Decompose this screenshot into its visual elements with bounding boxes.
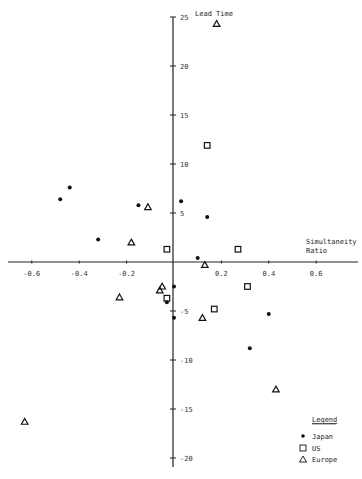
x-tick-label: 0.6 (310, 270, 323, 278)
legend-title: Legend (312, 416, 337, 424)
y-tick-label: 25 (180, 14, 188, 22)
legend-us-marker (300, 445, 306, 451)
y-tick-label: 10 (180, 161, 188, 169)
legend-europe-marker (300, 456, 307, 462)
point-us (164, 246, 170, 252)
x-tick-label: -0.2 (118, 270, 135, 278)
y-axis-title: Lead Time (195, 10, 233, 18)
y-tick-label: 20 (180, 63, 188, 71)
data-points (21, 21, 279, 425)
scatter-chart: -0.6-0.4-0.20.20.40.6 252015105-5-10-15-… (0, 0, 362, 479)
x-tick-label: 0.2 (215, 270, 228, 278)
point-japan (267, 312, 271, 316)
point-us (245, 284, 251, 290)
point-japan (172, 285, 176, 289)
point-japan (136, 203, 140, 207)
point-europe (128, 239, 135, 245)
y-tick-label: -15 (180, 406, 193, 414)
point-us (211, 306, 217, 312)
legend-japan-marker (301, 434, 305, 438)
y-tick-label: 5 (180, 210, 184, 218)
point-us (204, 143, 210, 149)
point-japan (196, 256, 200, 260)
point-europe (202, 262, 209, 268)
legend-us-label: US (312, 445, 320, 453)
point-us (235, 246, 241, 252)
x-axis-title-line2: Ratio (306, 247, 327, 255)
point-japan (172, 316, 176, 320)
y-tick-label: 15 (180, 112, 188, 120)
point-europe (21, 418, 28, 424)
y-tick-label: -20 (180, 455, 193, 463)
point-japan (68, 186, 72, 190)
point-japan (179, 199, 183, 203)
y-tick-label: -10 (180, 357, 193, 365)
point-europe (145, 204, 152, 210)
point-japan (205, 215, 209, 219)
x-axis-title-line1: Simultaneity (306, 238, 357, 246)
point-europe (213, 21, 220, 27)
point-japan (248, 346, 252, 350)
point-japan (96, 237, 100, 241)
point-europe (273, 386, 280, 392)
point-europe (156, 287, 163, 293)
point-europe (116, 294, 123, 300)
legend: Legend Japan US Europe (300, 416, 338, 464)
point-europe (199, 315, 206, 321)
point-japan (58, 197, 62, 201)
x-tick-label: 0.4 (262, 270, 275, 278)
x-tick-label: -0.4 (71, 270, 88, 278)
legend-japan-label: Japan (312, 433, 333, 441)
x-tick-label: -0.6 (23, 270, 40, 278)
legend-europe-label: Europe (312, 456, 337, 464)
y-tick-label: -5 (180, 308, 188, 316)
